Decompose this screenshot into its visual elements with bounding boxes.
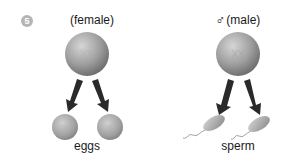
male-arrows [216, 79, 261, 115]
arrow-down-left-icon [216, 79, 234, 115]
eggs-label: eggs [74, 139, 100, 153]
svg-text:XX: XX [80, 49, 94, 60]
egg-cell-1: X [52, 114, 78, 140]
arrow-down-right-icon [244, 79, 261, 115]
egg-cell-2: X [97, 114, 123, 140]
arrow-down-left-icon [66, 79, 83, 112]
svg-text:X: X [107, 123, 113, 132]
svg-text:XY: XY [231, 49, 245, 60]
female-parent-cell: XX [65, 32, 109, 76]
sperm-label: sperm [221, 139, 254, 153]
arrow-down-right-icon [92, 79, 109, 112]
male-parent-cell: XY [216, 32, 260, 76]
svg-text:X: X [62, 123, 68, 132]
female-arrows [66, 79, 109, 112]
meiosis-diagram: XX X X XY [0, 0, 293, 159]
sperm-cell-2 [231, 113, 272, 140]
sperm-cell-1 [183, 112, 227, 139]
